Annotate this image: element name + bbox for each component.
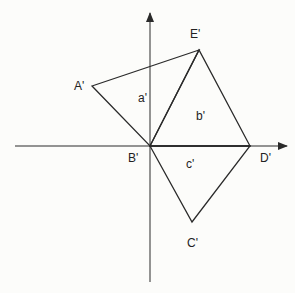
region-label-a: a' xyxy=(138,91,147,105)
point-label-a: A' xyxy=(74,79,84,93)
region-label-c: c' xyxy=(186,157,194,171)
triangle-b xyxy=(150,50,250,146)
coordinate-diagram: E' A' a' b' B' c' D' C' xyxy=(0,0,295,293)
region-label-b: b' xyxy=(196,109,205,123)
point-label-c: C' xyxy=(187,236,198,250)
triangle-c xyxy=(150,146,250,222)
point-label-e: E' xyxy=(190,27,200,41)
point-label-b: B' xyxy=(128,151,138,165)
point-label-d: D' xyxy=(260,151,271,165)
